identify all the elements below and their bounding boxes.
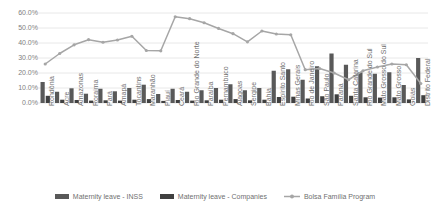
- line-marker: [318, 67, 321, 70]
- line-marker: [73, 43, 76, 46]
- line-marker: [58, 52, 61, 55]
- bar: [69, 88, 73, 103]
- bar: [378, 98, 382, 103]
- line-marker: [304, 68, 307, 71]
- legend-label: Maternity leave - INSS: [73, 193, 143, 200]
- line-marker: [390, 62, 393, 65]
- bar: [358, 72, 362, 103]
- bar: [243, 90, 247, 103]
- bar: [349, 96, 353, 103]
- line-marker: [116, 38, 119, 41]
- bar: [104, 100, 108, 103]
- bar: [185, 92, 189, 103]
- bar: [142, 85, 146, 103]
- bar: [228, 84, 232, 103]
- bar: [75, 100, 79, 103]
- line-marker: [289, 33, 292, 36]
- bar: [156, 94, 160, 103]
- bar: [127, 88, 131, 103]
- bar: [301, 80, 305, 103]
- legend-bar-swatch-icon: [160, 194, 174, 199]
- bar: [392, 97, 396, 103]
- bar: [84, 94, 88, 103]
- line-marker: [405, 63, 408, 66]
- bar: [214, 88, 218, 103]
- line-marker: [44, 62, 47, 65]
- bar: [132, 100, 136, 103]
- legend-bar-swatch-icon: [55, 194, 69, 199]
- bar: [373, 74, 377, 103]
- legend-item[interactable]: Bolsa Família Program: [284, 193, 375, 200]
- line-marker: [347, 78, 350, 81]
- line-marker: [203, 21, 206, 24]
- bar: [219, 100, 223, 103]
- bar: [171, 89, 175, 103]
- line-marker: [101, 41, 104, 44]
- bar: [89, 101, 93, 103]
- line-marker: [361, 69, 364, 72]
- line-marker: [333, 71, 336, 74]
- bar: [118, 101, 122, 103]
- bar: [277, 97, 281, 103]
- bar: [286, 69, 290, 103]
- bar: [46, 96, 50, 103]
- bar: [257, 88, 261, 103]
- chart-legend: Maternity leave - INSSMaternity leave - …: [0, 188, 430, 204]
- bar: [291, 97, 295, 103]
- bar: [161, 101, 165, 103]
- bar: [320, 96, 324, 103]
- line-marker: [174, 15, 177, 18]
- bar: [329, 54, 333, 104]
- bar: [387, 72, 391, 103]
- bar: [98, 89, 102, 103]
- bar: [306, 99, 310, 104]
- bar: [248, 100, 252, 103]
- bar: [402, 85, 406, 103]
- bar: [199, 90, 203, 103]
- bar: [55, 92, 59, 103]
- line-marker: [246, 40, 249, 43]
- bar: [41, 82, 45, 103]
- line-marker: [231, 32, 234, 35]
- bar: [113, 91, 117, 103]
- bar: [60, 100, 64, 103]
- bar: [272, 71, 276, 103]
- line-marker: [217, 27, 220, 30]
- line-marker: [419, 82, 422, 85]
- line-marker: [145, 49, 148, 52]
- bar: [344, 65, 348, 103]
- line-marker: [275, 32, 278, 35]
- legend-label: Bolsa Família Program: [304, 193, 375, 200]
- legend-item[interactable]: Maternity leave - INSS: [55, 193, 143, 200]
- bar: [205, 100, 209, 103]
- bar: [421, 95, 425, 103]
- bar: [262, 100, 266, 103]
- legend-label: Maternity leave - Companies: [178, 193, 267, 200]
- bar: [364, 97, 368, 103]
- bar: [335, 94, 339, 103]
- legend-line-marker-icon: [284, 193, 300, 200]
- bar: [176, 100, 180, 103]
- line-marker: [188, 17, 191, 20]
- bar: [407, 99, 411, 103]
- line-marker: [87, 38, 90, 41]
- bar: [315, 66, 319, 103]
- line-marker: [130, 35, 133, 38]
- line-marker: [159, 49, 162, 52]
- bar: [234, 99, 238, 103]
- legend-item[interactable]: Maternity leave - Companies: [160, 193, 267, 200]
- bar: [190, 101, 194, 103]
- line-marker: [376, 65, 379, 68]
- bar: [147, 99, 151, 103]
- line-marker: [260, 29, 263, 32]
